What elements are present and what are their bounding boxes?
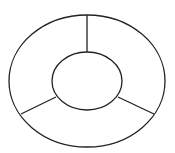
inner-ellipse: [52, 52, 122, 110]
divider-lower-right: [118, 97, 154, 114]
divider-lower-left: [21, 97, 56, 114]
diagram-canvas: [0, 0, 175, 153]
ring-diagram: [0, 0, 175, 153]
